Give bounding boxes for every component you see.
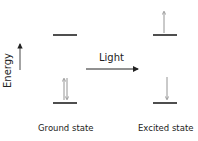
energy-diagram [0, 0, 198, 141]
energy-axis-label: Energy [2, 53, 13, 88]
excited-state-label: Excited state [138, 123, 193, 133]
light-label: Light [99, 52, 124, 63]
ground-state-label: Ground state [38, 123, 94, 133]
